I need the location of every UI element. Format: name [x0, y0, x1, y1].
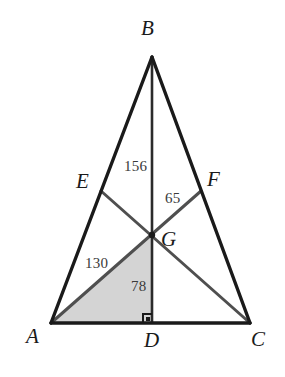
vertex-label-a: A: [26, 326, 39, 347]
right-angle-marker-dot: [146, 317, 150, 321]
figure-canvas: B A C D E F G 156 65 130 78: [0, 0, 285, 377]
vertex-label-d: D: [144, 330, 159, 351]
vertex-label-e: E: [76, 171, 89, 192]
segment-length-gd: 78: [131, 279, 147, 294]
segment-length-gf: 65: [165, 191, 181, 206]
vertex-label-c: C: [251, 329, 265, 350]
vertex-label-g: G: [161, 229, 176, 250]
centroid-point-g: [149, 232, 155, 238]
triangle-median-diagram: [0, 0, 285, 377]
segment-length-ag: 130: [85, 256, 108, 271]
vertex-label-b: B: [141, 18, 154, 39]
segment-length-bg: 156: [124, 159, 147, 174]
vertex-label-f: F: [207, 169, 220, 190]
